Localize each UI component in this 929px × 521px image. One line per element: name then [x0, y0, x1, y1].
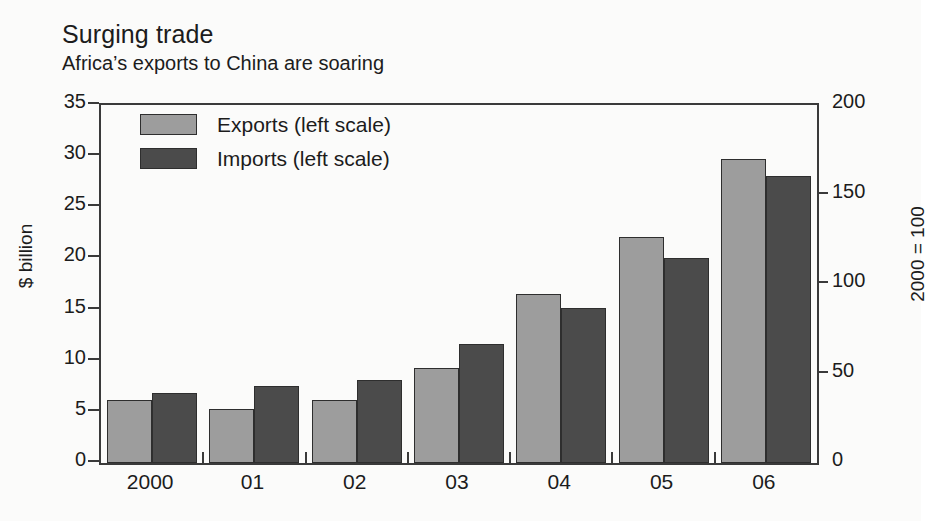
- x-axis-label-03: 03: [402, 470, 512, 494]
- bar-imports-04: [561, 308, 606, 463]
- bar-exports-2000: [107, 400, 152, 463]
- y-axis-left-tick: [88, 460, 99, 462]
- y-axis-left-label: 25: [40, 192, 86, 215]
- chart-subtitle: Africa’s exports to China are soaring: [62, 52, 384, 75]
- y-axis-right-label: 0: [832, 448, 843, 471]
- bar-imports-06: [766, 176, 811, 463]
- y-axis-right-label: 50: [832, 359, 854, 382]
- x-axis-label-2000: 2000: [95, 470, 205, 494]
- legend-item-imports: Imports (left scale): [140, 144, 440, 173]
- bar-exports-04: [516, 294, 561, 463]
- y-axis-left-tick: [88, 358, 99, 360]
- y-axis-left-tick: [88, 153, 99, 155]
- y-axis-right-label: 200: [832, 90, 865, 113]
- x-axis-tick: [407, 452, 409, 463]
- bar-exports-03: [414, 368, 459, 463]
- y-axis-left-tick: [88, 102, 99, 104]
- bar-exports-02: [312, 400, 357, 463]
- legend-label-imports: Imports (left scale): [217, 147, 390, 171]
- y-axis-left-tick: [88, 255, 99, 257]
- y-axis-left-label: 30: [40, 141, 86, 164]
- x-axis-tick: [714, 452, 716, 463]
- y-axis-left-label: 15: [40, 295, 86, 318]
- bar-exports-05: [619, 237, 664, 463]
- bar-exports-06: [721, 159, 766, 463]
- y-axis-left-label: 20: [40, 243, 86, 266]
- x-axis-tick: [611, 452, 613, 463]
- bar-imports-01: [254, 386, 299, 463]
- y-axis-right-tick: [817, 371, 828, 373]
- y-axis-right-label: 150: [832, 180, 865, 203]
- x-axis-label-01: 01: [197, 470, 307, 494]
- bar-imports-05: [664, 258, 709, 463]
- x-axis-tick: [509, 452, 511, 463]
- y-axis-left-label: 0: [40, 448, 86, 471]
- legend-swatch-exports: [140, 114, 197, 135]
- x-axis-label-05: 05: [607, 470, 717, 494]
- bar-exports-01: [209, 409, 254, 463]
- chart-legend: Exports (left scale) Imports (left scale…: [140, 110, 440, 178]
- x-axis-tick: [305, 452, 307, 463]
- x-axis-label-02: 02: [300, 470, 410, 494]
- bar-imports-02: [357, 380, 402, 463]
- y-axis-left-title: $ billion: [15, 186, 37, 326]
- y-axis-left-tick: [88, 307, 99, 309]
- legend-label-exports: Exports (left scale): [217, 113, 391, 137]
- y-axis-right-title: 2000 = 100: [907, 174, 929, 334]
- y-axis-left-tick: [88, 409, 99, 411]
- legend-item-exports: Exports (left scale): [140, 110, 440, 139]
- y-axis-right-labels: 050100150200: [832, 0, 892, 521]
- y-axis-left-label: 10: [40, 346, 86, 369]
- y-axis-right-label: 100: [832, 269, 865, 292]
- y-axis-right-tick: [817, 281, 828, 283]
- y-axis-left-label: 35: [40, 90, 86, 113]
- y-axis-left-labels: 05101520253035: [30, 0, 86, 521]
- y-axis-right-tick: [817, 192, 828, 194]
- legend-swatch-imports: [140, 148, 197, 169]
- x-axis-label-04: 04: [504, 470, 614, 494]
- x-axis-labels: 2000010203040506: [99, 470, 815, 504]
- y-axis-left-tick: [88, 204, 99, 206]
- x-axis-label-06: 06: [709, 470, 819, 494]
- y-axis-left-label: 5: [40, 397, 86, 420]
- bar-imports-03: [459, 344, 504, 463]
- x-axis-tick: [202, 452, 204, 463]
- bar-imports-2000: [152, 393, 197, 463]
